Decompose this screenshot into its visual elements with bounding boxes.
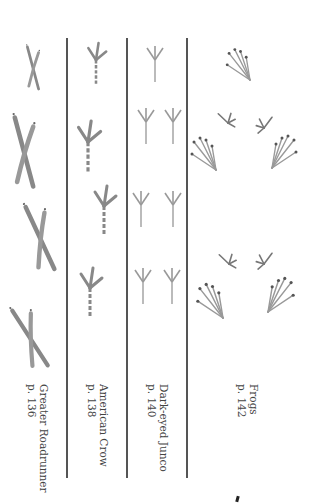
frog-hind-track-icon — [223, 318, 224, 319]
crow-track-icon — [96, 60, 97, 61]
junco-track-icon — [172, 282, 173, 283]
species-name: Greater Roadrunner — [38, 384, 50, 492]
frog-hind-track-icon — [216, 170, 217, 171]
frog-front-track-icon — [229, 264, 230, 265]
frog-hind-track-icon — [272, 168, 273, 169]
frog-front-track-icon — [264, 264, 265, 265]
column-label: Greater Roadrunner p. 136 — [26, 384, 50, 492]
crow-track-icon — [104, 206, 105, 207]
frog-hind-track-icon — [268, 312, 269, 313]
junco-track-icon — [146, 122, 147, 123]
page-mark — [235, 496, 239, 503]
roadrunner-track-icon — [24, 152, 25, 153]
page-ref: p. 138 — [86, 384, 98, 467]
crow-track-icon — [88, 142, 89, 143]
junco-track-icon — [141, 205, 142, 206]
page-ref: p. 142 — [236, 384, 248, 417]
frog-hind-track-icon — [250, 80, 251, 81]
frog-front-track-icon — [264, 128, 265, 129]
frog-front-track-icon — [228, 123, 229, 124]
page-ref: p. 140 — [146, 384, 158, 472]
roadrunner-track-icon — [30, 338, 31, 339]
roadrunner-track-icon — [33, 68, 34, 69]
junco-track-icon — [143, 282, 144, 283]
species-name: Frogs — [248, 384, 260, 417]
species-name: American Crow — [98, 384, 110, 467]
junco-track-icon — [173, 205, 174, 206]
junco-track-icon — [155, 60, 156, 61]
page-ref: p. 136 — [26, 384, 38, 492]
roadrunner-track-icon — [40, 238, 41, 239]
column-label: Frogs p. 142 — [236, 384, 260, 417]
crow-track-icon — [90, 288, 91, 289]
junco-track-icon — [173, 122, 174, 123]
species-name: Dark-eyed Junco — [158, 384, 170, 472]
column-divider — [126, 38, 128, 478]
column-divider — [186, 38, 188, 478]
column-label: American Crow p. 138 — [86, 384, 110, 467]
column-label: Dark-eyed Junco p. 140 — [146, 384, 170, 472]
column-divider — [66, 38, 68, 478]
